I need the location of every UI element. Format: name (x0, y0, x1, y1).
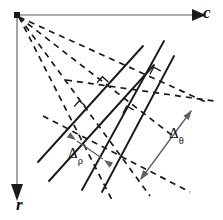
r-axis-label: r (16, 196, 23, 213)
delta-theta-arrow (137, 108, 194, 182)
diagram-canvas (0, 0, 223, 220)
delta-theta-subscript: θ (179, 135, 184, 146)
axes-group (11, 9, 206, 201)
ray-2 (19, 17, 150, 196)
ray-4 (19, 17, 208, 103)
ray-1 (19, 17, 112, 200)
hough-parameter-space-diagram: c r Δρ Δθ (0, 0, 223, 220)
line-b1 (82, 41, 164, 190)
delta-theta-label: Δθ (169, 126, 184, 145)
delta-rho-symbol: Δ (68, 145, 78, 161)
delta-rho-subscript: ρ (78, 155, 83, 166)
line-b2 (102, 56, 174, 192)
delta-rho-label: Δρ (68, 146, 83, 165)
solid-line-family-a (38, 46, 154, 181)
delta-theta-symbol: Δ (169, 125, 179, 141)
c-axis-label: c (203, 4, 211, 21)
delta-rho-arrow-head-lower (102, 157, 113, 167)
